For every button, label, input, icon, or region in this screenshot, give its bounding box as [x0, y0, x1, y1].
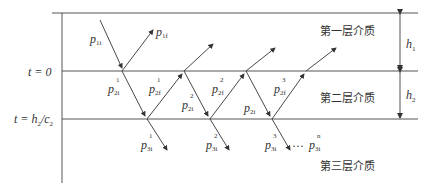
wave-p2i-2-label: p22i	[182, 99, 193, 113]
wave-p3i-2-label: p23i	[206, 139, 217, 153]
layer-3-label: 第三层介质	[320, 157, 375, 173]
wave-p3i-3-label: p33i	[265, 139, 276, 153]
wave-p3i-1-label: p13i	[141, 139, 152, 153]
h1-label: h1	[406, 38, 416, 53]
h2-label: h2	[406, 89, 416, 104]
wave-p1i-label: p1i	[90, 33, 101, 47]
layer-2-label: 第二层介质	[320, 89, 375, 105]
wave-p2f-1-label: p12f	[149, 83, 161, 97]
layer-1-label: 第一层介质	[320, 22, 375, 38]
wave-p2f-2-label: p22f	[212, 83, 224, 97]
wave-p3i-n-label: pn3i	[309, 139, 320, 153]
wave-p2f-3-label: p32f	[274, 83, 286, 97]
ellipsis: ···	[292, 140, 304, 152]
wave-p2i-label: p2i	[244, 102, 255, 116]
time-zero-label: t = 0	[28, 66, 51, 78]
wave-p1f-label: p1f	[156, 26, 168, 40]
wave-p2i-1-label: p12i	[108, 83, 119, 97]
time-h2-c2-label: t = h2/c2	[14, 113, 53, 128]
